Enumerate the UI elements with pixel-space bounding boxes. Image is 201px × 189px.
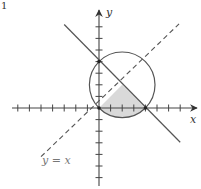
intersection-point <box>97 60 101 64</box>
x-axis-label: x <box>190 113 197 126</box>
curves <box>41 24 180 157</box>
y-axis-label: y <box>105 6 113 19</box>
line-y-equals-x <box>41 24 179 157</box>
intersection-point <box>144 106 148 110</box>
intersection-point <box>97 106 101 110</box>
figure-number: 1 <box>1 0 7 11</box>
figure: 1 y x y = x <box>0 0 201 189</box>
line-label-y-equals-x: y = x <box>41 154 71 167</box>
line-x-plus-y-equals-4 <box>64 24 180 142</box>
axes <box>12 10 197 186</box>
